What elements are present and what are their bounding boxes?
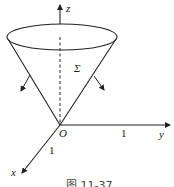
cone-surface-diagram: [0, 0, 174, 187]
figure-caption: 图 11-37: [66, 180, 112, 187]
x-tick-1: 1: [49, 145, 55, 156]
cone-left-edge: [8, 39, 60, 125]
cone-rim: [7, 24, 117, 50]
cone-right-edge: [60, 39, 116, 125]
z-axis-label: z: [66, 3, 70, 14]
x-axis-label: x: [11, 167, 16, 178]
normal-arrow-left: [21, 75, 30, 91]
normal-arrow-right: [94, 76, 104, 90]
y-axis-label: y: [159, 129, 164, 140]
y-tick-1: 1: [121, 128, 127, 139]
origin-label: O: [59, 128, 67, 139]
surface-sigma-label: Σ: [74, 63, 81, 74]
